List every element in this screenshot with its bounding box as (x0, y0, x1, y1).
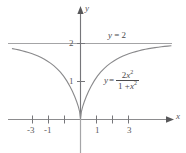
y-axis-label: y (85, 4, 89, 13)
y-axis-arrow-icon (77, 6, 83, 14)
x-tick-label-1: 1 (95, 126, 100, 135)
asymptote-annotation-value: 2 (122, 30, 127, 40)
asymptote-annotation-equals: = (112, 30, 122, 40)
x-tick-label-3: 3 (127, 126, 132, 135)
x-axis-arrow-icon (166, 116, 174, 122)
equation-lhs: y (104, 76, 108, 85)
x-tick-label-minus-3: -3 (27, 126, 35, 135)
asymptote-annotation: y = 2 (108, 31, 126, 40)
equation-denominator-exponent: 2 (134, 80, 137, 86)
graph-figure: -3 -1 1 3 1 2 x y y = 2 y = 2x2 1 +x2 (0, 0, 186, 153)
equation-fraction: 2x2 1 +x2 (116, 70, 139, 92)
function-curve (12, 46, 171, 119)
equation-equals-sign: = (109, 76, 114, 85)
equation-numerator-exponent: 2 (130, 69, 133, 75)
y-tick-label-2: 2 (69, 39, 74, 48)
x-tick-label-minus-1: -1 (44, 126, 52, 135)
equation-numerator: 2x2 (120, 70, 136, 80)
equation-annotation: y = 2x2 1 +x2 (104, 70, 139, 92)
equation-denominator: 1 +x2 (116, 81, 139, 91)
x-axis-label: x (176, 112, 180, 121)
equation-denominator-constant: 1 + (118, 81, 130, 91)
y-tick-label-1: 1 (69, 77, 74, 86)
